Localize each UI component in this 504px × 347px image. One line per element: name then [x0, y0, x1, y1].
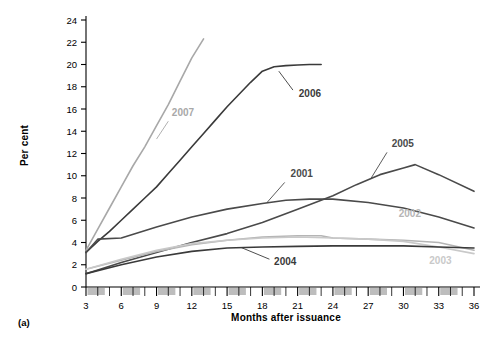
series-annotation-2007: 2007 [172, 107, 195, 118]
x-axis-band [264, 288, 281, 295]
x-axis-band [299, 288, 316, 295]
x-axis-band [193, 288, 210, 295]
y-tick-label: 4 [72, 237, 77, 248]
y-tick-label: 24 [66, 15, 77, 26]
annotation-leader-2006 [279, 71, 293, 90]
x-tick-label: 27 [363, 300, 374, 311]
line-chart: 0246810121416182022243691215182124273033… [0, 0, 504, 347]
y-tick-label: 10 [66, 170, 77, 181]
x-axis-band [405, 288, 422, 295]
x-axis-band [440, 288, 457, 295]
x-tick-label: 21 [292, 300, 303, 311]
x-axis-band [158, 288, 175, 295]
x-axis-band [334, 288, 351, 295]
y-tick-label: 14 [66, 126, 77, 137]
x-tick-label: 6 [119, 300, 124, 311]
y-axis-title: Per cent [14, 0, 36, 290]
x-tick-label: 12 [187, 300, 198, 311]
x-tick-label: 15 [222, 300, 233, 311]
y-tick-label: 20 [66, 59, 77, 70]
figure-panel: 0246810121416182022243691215182124273033… [0, 0, 504, 347]
x-tick-label: 9 [154, 300, 159, 311]
y-tick-label: 12 [66, 148, 77, 159]
series-annotation-2006: 2006 [299, 88, 322, 99]
x-axis-band [88, 288, 105, 295]
y-tick-label: 6 [72, 215, 77, 226]
x-tick-label: 24 [328, 300, 339, 311]
x-tick-label: 36 [469, 300, 480, 311]
series-layer [86, 39, 474, 274]
series-line-2006 [86, 65, 321, 253]
x-tick-label: 30 [398, 300, 409, 311]
series-annotation-2003: 2003 [429, 255, 452, 266]
y-tick-label: 0 [72, 282, 77, 293]
y-tick-label: 8 [72, 193, 77, 204]
x-axis-band [123, 288, 140, 295]
y-tick-label: 18 [66, 81, 77, 92]
series-annotation-2004: 2004 [274, 256, 297, 267]
x-axis-band [229, 288, 246, 295]
series-annotation-2001: 2001 [291, 168, 314, 179]
x-axis-title: Months after issuance [86, 312, 486, 323]
series-annotation-2005: 2005 [392, 138, 415, 149]
x-axis-band [370, 288, 387, 295]
y-axis-title-text: Per cent [20, 124, 31, 165]
y-tick-label: 22 [66, 37, 77, 48]
annotation-leader-2001 [267, 182, 285, 202]
x-tick-label: 3 [83, 300, 88, 311]
annotation-leader-2004 [241, 248, 269, 260]
y-tick-label: 16 [66, 104, 77, 115]
series-annotation-2002: 2002 [399, 208, 422, 219]
panel-caption: (a) [18, 317, 30, 328]
x-tick-label: 33 [433, 300, 444, 311]
x-tick-label: 18 [257, 300, 268, 311]
y-tick-label: 2 [72, 259, 77, 270]
